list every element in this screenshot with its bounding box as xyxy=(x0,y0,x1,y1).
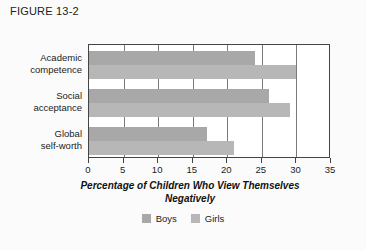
x-tick-mark xyxy=(330,158,331,163)
bar-girls-0 xyxy=(89,65,296,79)
legend-label-girls: Girls xyxy=(205,213,225,224)
legend-item-girls[interactable]: Girls xyxy=(191,213,225,224)
x-tick-label-5: 5 xyxy=(111,164,135,175)
legend-swatch-boys xyxy=(142,214,151,223)
bar-girls-1 xyxy=(89,103,290,117)
category-label-1: Socialacceptance xyxy=(4,90,82,113)
category-label-2: Globalself-worth xyxy=(4,128,82,151)
category-label-line: Global xyxy=(55,128,82,139)
x-tick-mark xyxy=(123,158,124,163)
legend: BoysGirls xyxy=(0,213,366,224)
x-tick-mark xyxy=(261,158,262,163)
plot-area xyxy=(88,44,330,158)
x-tick-mark xyxy=(88,158,89,163)
bar-girls-2 xyxy=(89,141,234,155)
x-tick-label-10: 10 xyxy=(145,164,169,175)
x-tick-label-0: 0 xyxy=(76,164,100,175)
x-tick-label-30: 30 xyxy=(283,164,307,175)
category-label-line: competence xyxy=(30,64,82,75)
category-label-line: Academic xyxy=(40,52,82,63)
x-tick-label-35: 35 xyxy=(318,164,342,175)
x-tick-mark xyxy=(226,158,227,163)
category-label-0: Academiccompetence xyxy=(4,52,82,75)
legend-swatch-girls xyxy=(191,214,200,223)
figure-title: FIGURE 13-2 xyxy=(10,5,79,17)
category-label-line: acceptance xyxy=(33,102,82,113)
x-tick-mark xyxy=(157,158,158,163)
x-tick-label-15: 15 xyxy=(180,164,204,175)
bar-boys-0 xyxy=(89,51,255,65)
bar-boys-1 xyxy=(89,89,269,103)
legend-item-boys[interactable]: Boys xyxy=(142,213,177,224)
x-axis-title-line1: Percentage of Children Who View Themselv… xyxy=(80,180,299,191)
bar-boys-2 xyxy=(89,127,207,141)
x-tick-mark xyxy=(192,158,193,163)
x-axis-title: Percentage of Children Who View Themselv… xyxy=(45,180,335,205)
bar-chart: AcademiccompetenceSocialacceptanceGlobal… xyxy=(0,30,366,250)
category-label-line: Social xyxy=(56,90,82,101)
x-tick-label-20: 20 xyxy=(214,164,238,175)
category-label-line: self-worth xyxy=(41,140,82,151)
gridline xyxy=(296,45,297,157)
legend-label-boys: Boys xyxy=(156,213,177,224)
x-tick-label-25: 25 xyxy=(249,164,273,175)
x-tick-mark xyxy=(295,158,296,163)
x-axis-title-line2: Negatively xyxy=(165,193,215,204)
